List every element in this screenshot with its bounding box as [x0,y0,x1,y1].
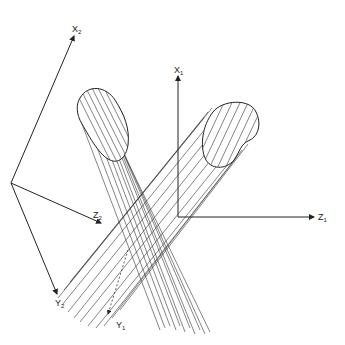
z2-axis [11,183,101,223]
z2-label: Z2 [93,210,103,221]
x2-axis [11,36,74,183]
left-cylinder [70,80,210,334]
left-cylinder-end-cap [77,88,128,161]
frame2-axes [11,36,101,294]
y1-label: Y1 [116,320,126,331]
y2-axis [11,183,57,294]
x2-label: X2 [72,24,82,35]
cylinder-intersection-diagram: X2 Z2 Y2 X1 Z1 Y1 [0,0,345,345]
y1-axis [108,250,128,314]
x1-label: X1 [174,65,184,76]
y2-label: Y2 [55,298,65,309]
z1-label: Z1 [318,212,328,223]
right-cylinder-end-cap [202,102,258,167]
